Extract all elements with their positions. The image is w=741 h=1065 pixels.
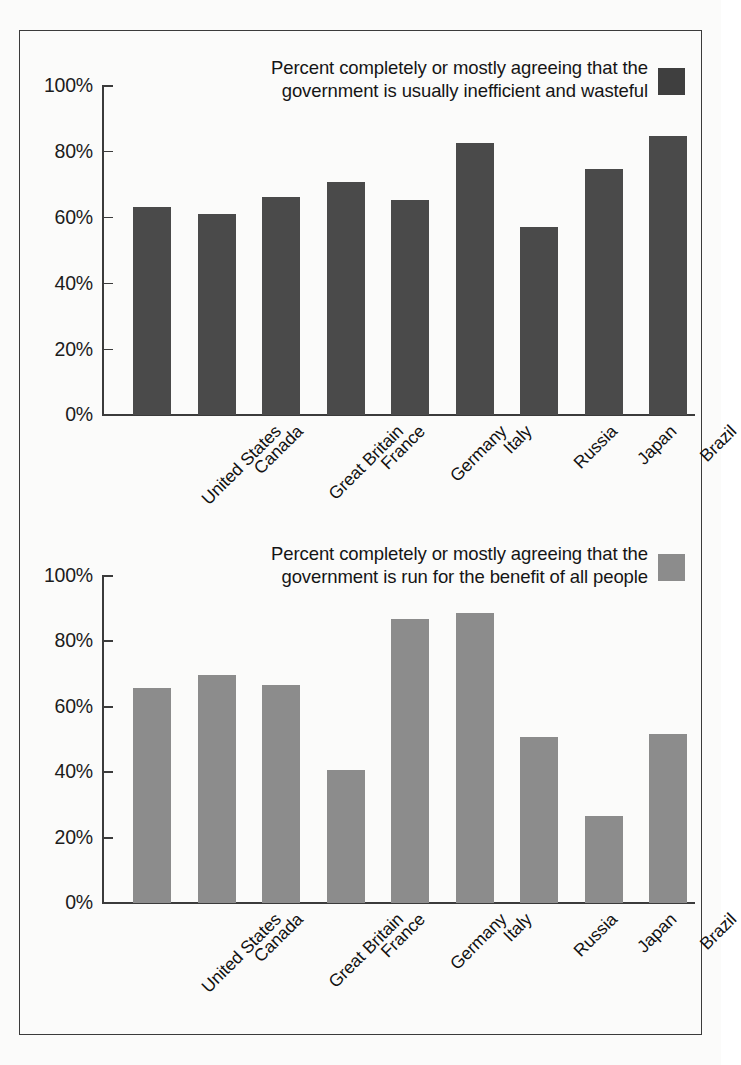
y-axis-tick-label: 20% <box>55 338 93 361</box>
bar <box>585 816 623 903</box>
y-axis-tick-label: 80% <box>55 629 93 652</box>
bar-group-bottom <box>103 575 687 903</box>
bar <box>391 200 429 414</box>
bar <box>133 207 171 415</box>
x-axis-category-label: Russia <box>569 909 621 961</box>
bar <box>456 613 494 903</box>
x-axis-category-label: Italy <box>499 421 536 458</box>
bar <box>520 227 558 415</box>
x-axis-line-bottom <box>102 902 695 904</box>
bar <box>262 197 300 414</box>
y-axis-tick-label: 0% <box>65 403 93 426</box>
bar <box>198 675 236 903</box>
bar <box>327 770 365 903</box>
chart-panel-inefficient-wasteful: Percent completely or mostly agreeing th… <box>20 31 703 531</box>
bar <box>520 737 558 902</box>
bar-group-top <box>103 85 687 415</box>
bar <box>262 685 300 903</box>
figure-frame: Percent completely or mostly agreeing th… <box>19 30 702 1035</box>
x-axis-category-label: Japan <box>632 421 680 469</box>
y-axis-tick-label: 60% <box>55 695 93 718</box>
bar <box>585 169 623 414</box>
bar <box>133 688 171 902</box>
bar <box>391 619 429 902</box>
x-axis-category-label: Italy <box>499 909 536 946</box>
y-axis-tick-label: 100% <box>44 74 93 97</box>
x-axis-line-top <box>102 414 695 416</box>
x-axis-category-label: Russia <box>569 421 621 473</box>
bar <box>456 143 494 415</box>
plot-area-top: 0%20%40%60%80%100% <box>102 85 687 416</box>
x-axis-category-label: Germany <box>446 421 511 486</box>
bar <box>649 136 687 414</box>
bar <box>649 734 687 903</box>
y-axis-tick-label: 60% <box>55 206 93 229</box>
y-axis-tick-label: 20% <box>55 826 93 849</box>
x-axis-category-label: Germany <box>446 909 511 974</box>
chart-panel-benefit-of-all-people: Percent completely or mostly agreeing th… <box>20 521 703 1031</box>
y-axis-tick-label: 80% <box>55 140 93 163</box>
x-axis-category-label: Japan <box>632 909 680 957</box>
y-axis-tick: 0% <box>102 902 113 904</box>
y-axis-tick-label: 40% <box>55 760 93 783</box>
y-axis-tick: 0% <box>102 414 113 416</box>
y-axis-tick-label: 40% <box>55 272 93 295</box>
plot-area-bottom: 0%20%40%60%80%100% <box>102 575 687 904</box>
y-axis-tick-label: 100% <box>44 564 93 587</box>
x-axis-category-label: Brazil <box>696 909 741 954</box>
bar <box>327 182 365 414</box>
x-axis-category-label: Brazil <box>696 421 741 466</box>
bar <box>198 214 236 415</box>
y-axis-tick-label: 0% <box>65 891 93 914</box>
